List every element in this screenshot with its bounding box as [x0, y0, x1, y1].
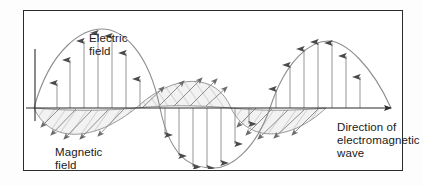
direction-label: Direction of electromagnetic wave: [337, 121, 420, 160]
magnetic-lobe-2: [136, 81, 231, 108]
electric-field-label: Electric field: [89, 32, 128, 58]
electric-arrows-hump-2: [276, 42, 360, 108]
magnetic-field-label: Magnetic field: [55, 146, 102, 172]
magnetic-lobe-3: [231, 108, 326, 134]
figure-frame: Electric field Magnetic field Direction …: [23, 10, 403, 171]
figure-page: Electric field Magnetic field Direction …: [0, 0, 423, 186]
